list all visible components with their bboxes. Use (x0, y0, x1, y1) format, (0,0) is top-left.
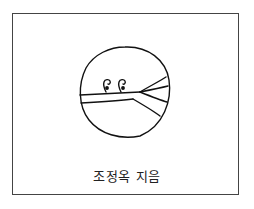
author-caption: 조정옥 지음 (0, 166, 254, 185)
cloud-curl-right-icon (119, 80, 126, 92)
branch-3 (140, 92, 167, 102)
branch-4 (133, 99, 160, 116)
band-upper-line (80, 92, 140, 95)
band-lower-line (81, 99, 133, 103)
cloud-curl-left-icon (104, 80, 111, 92)
